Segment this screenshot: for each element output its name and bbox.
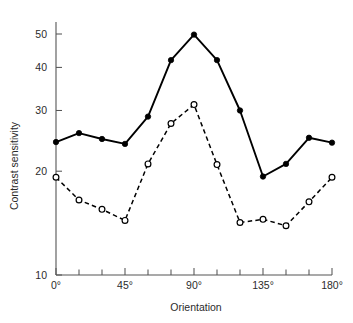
data-point-solid-filled-circles-135 [260,174,265,179]
x-tick-label-90: 90° [186,279,202,291]
data-point-solid-filled-circles-30 [99,136,104,141]
series-lines [56,35,332,226]
data-point-solid-filled-circles-45 [122,141,127,146]
data-point-solid-filled-circles-0 [53,139,58,144]
series-markers [53,32,335,229]
data-point-solid-filled-circles-105 [214,57,219,62]
data-point-dashed-open-circles-180 [329,174,335,180]
data-point-solid-filled-circles-60 [145,114,150,119]
x-tick-label-180: 180° [321,279,343,291]
x-tick-label-0: 0° [51,279,61,291]
data-point-solid-filled-circles-165 [306,135,311,140]
data-point-dashed-open-circles-120 [237,220,243,226]
data-point-solid-filled-circles-150 [283,161,288,166]
data-point-dashed-open-circles-90 [191,102,197,108]
data-point-dashed-open-circles-60 [145,161,151,167]
data-point-solid-filled-circles-75 [168,57,173,62]
x-tick-label-135: 135° [252,279,274,291]
x-axis-tick-labels: 0°45°90°135°180° [51,279,343,291]
data-point-dashed-open-circles-15 [76,197,82,203]
data-point-solid-filled-circles-15 [76,130,81,135]
y-tick-label-10: 10 [35,269,47,281]
series-line-dashed-open-circles [56,105,332,226]
y-tick-label-20: 20 [35,165,47,177]
y-axis-ticks [56,34,62,275]
data-point-solid-filled-circles-90 [191,32,196,37]
x-tick-label-45: 45° [117,279,133,291]
data-point-dashed-open-circles-75 [168,121,174,127]
data-point-dashed-open-circles-105 [214,162,220,168]
data-point-dashed-open-circles-165 [306,199,312,205]
data-point-dashed-open-circles-135 [260,216,266,222]
data-point-dashed-open-circles-0 [53,174,59,180]
axes-lines [56,22,332,275]
x-axis-ticks [56,268,332,275]
data-point-dashed-open-circles-30 [99,206,105,212]
data-point-dashed-open-circles-150 [283,223,289,229]
y-tick-label-30: 30 [35,104,47,116]
y-tick-label-50: 50 [35,28,47,40]
data-point-dashed-open-circles-45 [122,218,128,224]
data-point-solid-filled-circles-120 [237,108,242,113]
contrast-sensitivity-orientation-chart: 1020304050 0°45°90°135°180° Orientation … [0,0,353,323]
y-axis-tick-labels: 1020304050 [35,28,47,281]
x-axis-title: Orientation [170,301,222,313]
y-axis-title: Contrast sensitivity [8,121,20,210]
data-point-solid-filled-circles-180 [329,140,334,145]
y-tick-label-40: 40 [35,61,47,73]
chart-figure: 1020304050 0°45°90°135°180° Orientation … [0,0,353,323]
